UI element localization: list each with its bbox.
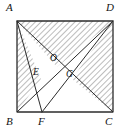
point-label-G: G bbox=[66, 70, 73, 80]
point-label-O: O bbox=[50, 54, 57, 64]
point-label-D: D bbox=[106, 2, 114, 13]
point-label-C: C bbox=[105, 116, 112, 127]
point-label-A: A bbox=[6, 2, 13, 13]
figure-canvas bbox=[0, 0, 123, 133]
point-label-F: F bbox=[38, 116, 45, 127]
point-label-B: B bbox=[6, 116, 13, 127]
point-label-E: E bbox=[33, 68, 39, 78]
geometry-figure: A D B C F E O G bbox=[0, 0, 123, 133]
